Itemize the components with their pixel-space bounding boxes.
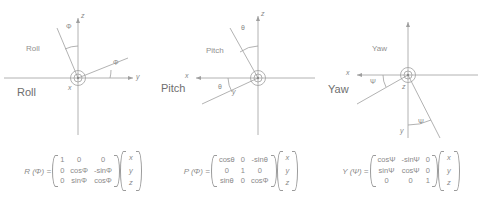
pitch-matrix-table: cosθ 0 -sinθ 0 1 0 sinθ 0 cosΦ: [216, 155, 272, 187]
angle-label-lower: θ: [218, 83, 222, 90]
angle-label-bottom: Ψ: [418, 118, 424, 125]
table-row: x: [445, 153, 453, 164]
cell: 0: [57, 166, 67, 177]
yaw-matrix-table: cosΨ -sinΨ 0 sinΨ cosΨ 0 0 0 1: [375, 155, 433, 187]
cell: y: [284, 166, 292, 177]
cell: -sinθ: [248, 155, 272, 166]
axis-label-z: z: [402, 83, 406, 90]
cell: 0: [91, 155, 115, 166]
roll-axes-svg: [0, 0, 161, 140]
axis-arrow-top: [406, 22, 410, 27]
roll-matrix-paren: 1 0 0 0 cosΦ -sinΦ 0 sinΦ cosΦ: [53, 155, 119, 187]
axis-label-z: z: [261, 10, 265, 17]
formula-roll: R (Φ) = 1 0 0 0 cosΦ -sinΦ 0 sinΦ cosΦ: [2, 146, 163, 196]
cell: x: [127, 153, 135, 164]
axis-label-y: y: [400, 127, 404, 134]
yaw-matrix-paren: cosΨ -sinΨ 0 sinΨ cosΨ 0 0 0 1: [371, 155, 437, 187]
pitch-axes-svg: [160, 0, 321, 140]
table-row: z: [127, 178, 135, 189]
cell: 0: [423, 166, 433, 177]
angle-label-lower: Φ: [113, 59, 119, 66]
rotated-z-line: [57, 28, 78, 78]
cell: cosΨ: [375, 155, 399, 166]
table-row: z: [445, 178, 453, 189]
yaw-vector-paren: x y z: [439, 151, 459, 191]
formula-roll-name: R (Φ) =: [24, 167, 51, 176]
cell: y: [127, 166, 135, 177]
yaw-vector-table: x y z: [443, 151, 455, 191]
cell: sinΨ: [375, 166, 399, 177]
cell: cosθ: [216, 155, 238, 166]
angle-label-upper: θ: [241, 24, 245, 31]
rotated-z-line: [230, 28, 258, 78]
table-row: cosΨ -sinΨ 0: [375, 155, 433, 166]
diagram-pitch: z x y θ θ Pitch Pitch: [160, 0, 321, 140]
table-row: 0 1 0: [216, 166, 272, 177]
label-pitch-small: Pitch: [206, 46, 224, 55]
cell: cosΦ: [248, 176, 272, 187]
roll-vector-paren: x y z: [121, 151, 141, 191]
rotated-y-line: [78, 58, 128, 78]
table-row: sinθ 0 cosΦ: [216, 176, 272, 187]
y-axis-arrow: [128, 76, 133, 80]
table-row: y: [445, 166, 453, 177]
table-row: y: [127, 166, 135, 177]
cell: x: [445, 153, 453, 164]
table-row: 0 0 1: [375, 176, 433, 187]
cell: 0: [398, 176, 422, 187]
cell: 0: [238, 176, 248, 187]
label-roll-large: Roll: [17, 86, 36, 98]
cell: -sinΨ: [398, 155, 422, 166]
cell: z: [284, 178, 292, 189]
cell: 0: [216, 166, 238, 177]
roll-vector-table: x y z: [125, 151, 137, 191]
diagram-yaw: x y z Ψ Ψ Yaw Yaw: [320, 0, 481, 140]
cell: 1: [57, 155, 67, 166]
cell: z: [445, 178, 453, 189]
axis-label-x: x: [346, 69, 350, 76]
cell: 0: [423, 155, 433, 166]
cell: sinθ: [216, 176, 238, 187]
table-row: cosθ 0 -sinθ: [216, 155, 272, 166]
rotated-x-line: [357, 75, 408, 104]
angle-label-left: Ψ: [370, 78, 376, 85]
cell: -sinΦ: [91, 166, 115, 177]
pitch-vector-table: x y z: [282, 151, 294, 191]
rotated-y-line: [202, 78, 258, 104]
cell: cosΦ: [67, 166, 91, 177]
axis-label-y: y: [232, 88, 236, 95]
roll-matrix-table: 1 0 0 0 cosΦ -sinΦ 0 sinΦ cosΦ: [57, 155, 115, 187]
cell: 0: [67, 155, 91, 166]
table-row: z: [284, 178, 292, 189]
table-row: x: [284, 153, 292, 164]
axis-label-y: y: [136, 73, 140, 80]
angle-arc-left: [383, 75, 386, 87]
table-row: x: [127, 153, 135, 164]
cell: sinΦ: [67, 176, 91, 187]
cell: cosΨ: [398, 166, 422, 177]
table-row: 0 sinΦ cosΦ: [57, 176, 115, 187]
z-axis-arrow: [256, 16, 260, 21]
label-pitch-large: Pitch: [161, 82, 185, 94]
table-row: 0 cosΦ -sinΦ: [57, 166, 115, 177]
cell: 1: [423, 176, 433, 187]
angle-arc-lower: [110, 70, 111, 78]
cell: y: [445, 166, 453, 177]
table-row: y: [284, 166, 292, 177]
pitch-vector-paren: x y z: [278, 151, 298, 191]
cell: 0: [57, 176, 67, 187]
formula-pitch: P (Φ) = cosθ 0 -sinθ 0 1 0 sinθ 0 cosΦ: [160, 146, 321, 196]
center-dot: [257, 77, 259, 79]
x-axis-arrow: [196, 76, 201, 80]
x-axis-arrow: [357, 73, 362, 77]
diagram-roll: z y x Φ Φ Roll Roll: [0, 0, 161, 140]
z-axis-arrow: [76, 18, 80, 23]
axis-label-z: z: [81, 12, 85, 19]
table-row: sinΨ cosΨ 0: [375, 166, 433, 177]
formula-pitch-name: P (Φ) =: [184, 167, 210, 176]
cell: x: [284, 153, 292, 164]
axis-label-x: x: [185, 72, 189, 79]
label-roll-small: Roll: [26, 44, 40, 53]
table-row: 1 0 0: [57, 155, 115, 166]
yaw-axes-svg: [320, 0, 483, 140]
